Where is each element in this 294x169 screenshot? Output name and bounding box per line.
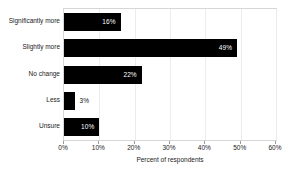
x-tick-label: 0%	[58, 144, 67, 151]
bar-value-label: 10%	[81, 118, 94, 136]
bar-row: 49%	[64, 39, 276, 57]
bar-value-label: 22%	[123, 66, 136, 84]
bar-chart: Significantly moreSlightly moreNo change…	[0, 0, 294, 169]
x-tick-label: 40%	[198, 144, 211, 151]
bar-row: 10%	[64, 118, 276, 136]
bars-container: 16%49%22%3%10%	[64, 9, 276, 140]
bar-value-label: 49%	[219, 39, 232, 57]
x-axis: 0%10%20%30%40%50%60%	[63, 141, 277, 155]
x-tick-label: 50%	[233, 144, 246, 151]
x-tick-label: 30%	[162, 144, 175, 151]
bar-row: 16%	[64, 13, 276, 31]
plot-area: 16%49%22%3%10%	[63, 8, 277, 141]
gridline	[276, 9, 277, 140]
bar	[64, 39, 237, 57]
category-axis: Significantly moreSlightly moreNo change…	[0, 8, 60, 141]
bar-value-label: 16%	[102, 13, 115, 31]
x-tick-label: 20%	[127, 144, 140, 151]
bar-value-label: 3%	[80, 92, 90, 110]
category-label: Slightly more	[2, 38, 60, 56]
bar	[64, 92, 75, 110]
category-label: No change	[2, 65, 60, 83]
bar-row: 22%	[64, 66, 276, 84]
bar-row: 3%	[64, 92, 276, 110]
category-label: Less	[2, 91, 60, 109]
x-axis-title: Percent of respondents	[63, 156, 277, 163]
x-tick-label: 10%	[92, 144, 105, 151]
category-label: Unsure	[2, 117, 60, 135]
category-label: Significantly more	[2, 12, 60, 30]
x-tick-label: 60%	[268, 144, 281, 151]
